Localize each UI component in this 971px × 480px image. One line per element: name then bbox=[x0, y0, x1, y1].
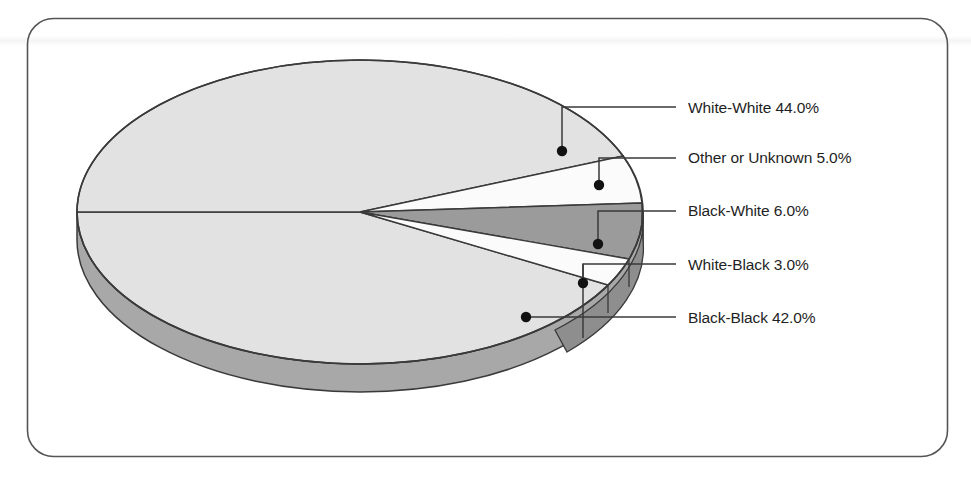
callout-dot-white-white bbox=[557, 146, 567, 156]
callout-dot-other-or-unknown bbox=[594, 180, 604, 190]
callout-dot-black-black bbox=[521, 312, 531, 322]
pie-top-faces bbox=[77, 60, 643, 364]
callout-label-black-black: Black-Black 42.0% bbox=[688, 309, 816, 326]
figure-page: White-White 44.0% Other or Unknown 5.0% … bbox=[0, 0, 971, 480]
callout-label-white-white: White-White 44.0% bbox=[688, 99, 819, 116]
callout-label-white-black: White-Black 3.0% bbox=[688, 256, 809, 273]
callout-dot-white-black bbox=[578, 278, 588, 288]
callout-labels: White-White 44.0% Other or Unknown 5.0% … bbox=[688, 99, 852, 326]
callout-dot-black-white bbox=[593, 239, 603, 249]
pie-chart-figure: White-White 44.0% Other or Unknown 5.0% … bbox=[0, 0, 971, 480]
callout-label-black-white: Black-White 6.0% bbox=[688, 202, 809, 219]
callout-label-other-or-unknown: Other or Unknown 5.0% bbox=[688, 149, 852, 166]
